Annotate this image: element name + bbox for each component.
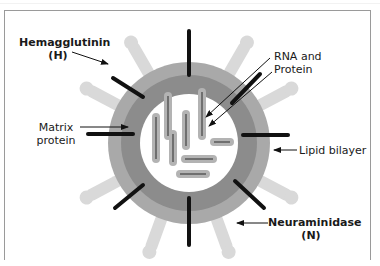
hemagglutinin-label: Hemagglutinin (H) xyxy=(19,36,97,62)
neuraminidase-label: Neuraminidase (N) xyxy=(268,216,354,242)
lipid-bilayer-label: Lipid bilayer xyxy=(299,144,366,157)
hemagglutinin-label-line2: (H) xyxy=(19,49,97,62)
neuraminidase-label-line2: (N) xyxy=(268,229,354,242)
matrix-label-line1: Matrix xyxy=(34,121,78,134)
rna-protein-label: RNA and Protein xyxy=(274,50,322,76)
rna-protein-label-line2: Protein xyxy=(274,63,322,76)
hemagglutinin-label-line1: Hemagglutinin xyxy=(19,36,97,49)
neuraminidase-label-line1: Neuraminidase xyxy=(268,216,354,229)
matrix-label-line2: protein xyxy=(34,134,78,147)
rna-protein-label-line1: RNA and xyxy=(274,50,322,63)
matrix-protein-label: Matrix protein xyxy=(34,121,78,147)
